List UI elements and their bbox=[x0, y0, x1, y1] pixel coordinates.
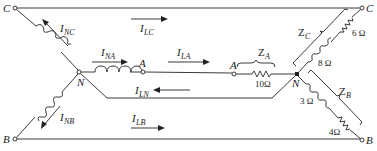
terminal-a-load bbox=[232, 72, 236, 76]
label-a-source: A bbox=[138, 57, 146, 69]
label-n-source: N bbox=[76, 76, 85, 88]
label-z-b: Z B bbox=[339, 85, 351, 100]
svg-text:NB: NB bbox=[63, 117, 74, 126]
source-coil-a bbox=[81, 66, 142, 72]
terminal-c-load bbox=[360, 6, 364, 10]
label-z-a: Z A bbox=[258, 46, 270, 61]
label-i-nb: I NB bbox=[59, 111, 74, 126]
bracket-za bbox=[237, 60, 275, 67]
svg-text:NA: NA bbox=[104, 52, 115, 61]
svg-text:Z: Z bbox=[339, 85, 346, 97]
label-c-load: C bbox=[366, 2, 374, 14]
label-i-na: I NA bbox=[100, 46, 115, 61]
label-c-source: C bbox=[3, 2, 11, 14]
label-3-ohm: 3 Ω bbox=[300, 96, 314, 106]
svg-text:Z: Z bbox=[298, 26, 305, 38]
label-i-nc: I NC bbox=[59, 22, 75, 37]
arrow-i-lc bbox=[131, 16, 168, 22]
label-i-lb: I LB bbox=[131, 112, 145, 127]
svg-text:B: B bbox=[346, 91, 351, 100]
circuit-diagram: C C B B N A A N I NC I LC I NA I LA I LN… bbox=[0, 0, 377, 151]
svg-text:LC: LC bbox=[143, 28, 154, 37]
node-n-source bbox=[77, 70, 81, 74]
source-coil-c bbox=[16, 9, 78, 70]
label-a-load: A bbox=[229, 59, 237, 71]
label-10-ohm: 10Ω bbox=[255, 79, 271, 89]
label-b-load: B bbox=[366, 134, 373, 146]
label-i-la: I LA bbox=[176, 46, 190, 61]
terminal-b-load bbox=[360, 138, 364, 142]
bracket-zb bbox=[308, 70, 362, 125]
terminal-c-source bbox=[13, 6, 17, 10]
label-z-c: Z C bbox=[298, 26, 311, 41]
source-coil-b bbox=[16, 74, 78, 138]
load-resistor-a bbox=[236, 71, 295, 77]
svg-text:NC: NC bbox=[63, 28, 75, 37]
svg-text:LN: LN bbox=[138, 90, 149, 99]
node-n-load bbox=[295, 72, 299, 76]
label-n-load: N bbox=[291, 77, 300, 89]
label-i-lc: I LC bbox=[139, 22, 154, 37]
label-b-source: B bbox=[3, 133, 10, 145]
svg-text:LA: LA bbox=[180, 52, 190, 61]
svg-text:Z: Z bbox=[258, 46, 265, 58]
terminal-a-source bbox=[141, 70, 145, 74]
label-6-ohm: 6 Ω bbox=[352, 28, 366, 38]
svg-text:LB: LB bbox=[135, 118, 145, 127]
arrow-i-ln bbox=[153, 87, 190, 93]
label-4-ohm: 4Ω bbox=[329, 127, 341, 137]
svg-text:C: C bbox=[305, 32, 311, 41]
terminal-b-source bbox=[13, 137, 17, 141]
label-i-ln: I LN bbox=[134, 84, 149, 99]
label-8-ohm: 8 Ω bbox=[318, 58, 332, 68]
svg-text:A: A bbox=[264, 52, 270, 61]
line-a-wire bbox=[145, 72, 232, 73]
